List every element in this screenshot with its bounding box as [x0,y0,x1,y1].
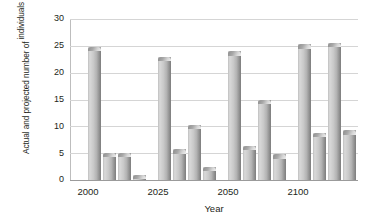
x-axis-title: Year [70,203,358,214]
bar-cap [133,175,146,180]
y-tick-30: 30 [48,13,64,23]
bar-2000-series3 [118,153,131,180]
y-tick-20: 20 [48,67,64,77]
bar-group-2000 [88,19,150,180]
bar-2025-series4 [203,167,216,180]
bar-group-2025 [158,19,220,180]
bar-cap [313,133,326,138]
bar-cap [343,130,356,135]
bar-2050-series4 [273,154,286,180]
y-tick-5: 5 [48,148,64,158]
y-tick-0: 0 [48,174,64,184]
y-tick-25: 25 [48,40,64,50]
bar-2025-series2 [173,149,186,180]
bar-2000-series1 [88,47,101,180]
bar-cap [203,167,216,172]
bar-2100-series3 [328,43,341,180]
gridline-0 [70,180,358,181]
x-tick-2100: 2100 [268,186,328,197]
bar-2025-series1 [158,57,171,180]
bar-cap [243,146,256,151]
bar-cap [103,153,116,158]
plot-area [70,19,358,180]
bar-2050-series2 [243,146,256,180]
bar-cap [273,154,286,159]
bar-cap [158,57,171,62]
bar-cap [188,125,201,130]
bar-group-2100 [298,19,360,180]
x-tick-2050: 2050 [198,186,258,197]
bar-group-2050 [228,19,290,180]
bar-2025-series3 [188,125,201,180]
bar-chart: Actual and projected number of individua… [0,0,375,224]
y-tick-10: 10 [48,121,64,131]
bar-cap [298,44,311,49]
bar-2050-series1 [228,51,241,180]
y-tick-15: 15 [48,94,64,104]
bar-2100-series4 [343,130,356,180]
bar-cap [228,51,241,56]
x-tick-2000: 2000 [58,186,118,197]
bar-cap [88,47,101,52]
bar-2050-series3 [258,100,271,181]
bar-2000-series2 [103,153,116,180]
bar-cap [118,153,131,158]
bar-2100-series1 [298,44,311,180]
bar-2100-series2 [313,133,326,180]
bar-cap [173,149,186,154]
bar-cap [328,43,341,48]
bar-cap [258,100,271,105]
bar-2000-series4 [133,175,146,180]
x-tick-2025: 2025 [128,186,188,197]
